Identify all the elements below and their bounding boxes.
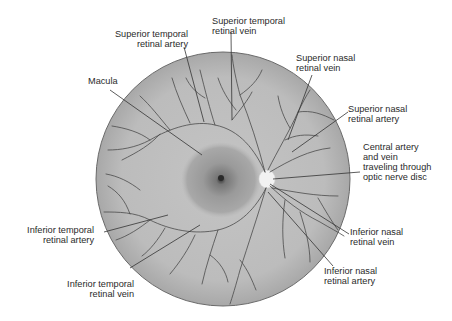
label-line: Superior nasal [348,104,407,114]
label-line: retinal artery [324,276,377,286]
label-line: Superior temporal [212,16,285,26]
label-line: Superior temporal [112,29,188,39]
label-superior-temporal-retinal-vein: Superior temporal retinal vein [212,16,285,36]
label-line: Central artery [363,142,431,152]
label-line: retinal artery [348,114,407,124]
label-superior-temporal-retinal-artery: Superior temporal retinal artery [112,29,188,49]
label-line: Inferior nasal [350,227,403,237]
label-central-artery-and-vein: Central artery and vein traveling throug… [363,142,431,182]
label-inferior-temporal-retinal-artery: Inferior temporal retinal artery [22,225,94,245]
label-inferior-nasal-retinal-artery: Inferior nasal retinal artery [324,266,377,286]
label-line: Inferior nasal [324,266,377,276]
label-line: Macula [88,76,118,86]
label-line: and vein [363,152,431,162]
label-line: optic nerve disc [363,172,431,182]
label-line: retinal vein [212,26,285,36]
label-line: Inferior temporal [22,225,94,235]
label-line: retinal vein [62,289,134,299]
label-line: retinal vein [296,63,355,73]
label-line: retinal artery [22,235,94,245]
label-line: Inferior temporal [62,279,134,289]
label-line: traveling through [363,162,431,172]
macula-region [181,142,261,218]
label-superior-nasal-retinal-vein: Superior nasal retinal vein [296,53,355,73]
label-macula: Macula [88,76,118,86]
label-inferior-nasal-retinal-vein: Inferior nasal retinal vein [350,227,403,247]
label-inferior-temporal-retinal-vein: Inferior temporal retinal vein [62,279,134,299]
label-superior-nasal-retinal-artery: Superior nasal retinal artery [348,104,407,124]
label-line: retinal vein [350,237,403,247]
label-line: Superior nasal [296,53,355,63]
label-line: retinal artery [112,39,188,49]
